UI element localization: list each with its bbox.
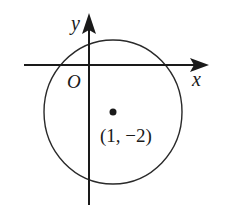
- y-axis-label: y: [69, 12, 80, 35]
- x-axis-label: x: [191, 68, 201, 90]
- center-coordinates-label: (1, −2): [100, 125, 152, 147]
- center-point: [110, 109, 117, 116]
- diagram-canvas: y x O (1, −2): [0, 0, 230, 214]
- origin-label: O: [67, 71, 81, 92]
